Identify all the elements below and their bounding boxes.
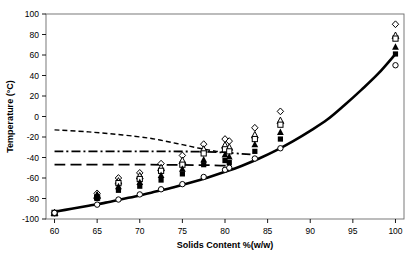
x-tick-label: 70 [135,226,145,236]
point-filled-square [180,171,185,176]
y-tick-label: 20 [30,91,40,101]
y-tick-label: -80 [27,194,40,204]
point-open-circle [158,187,163,192]
point-filled-square [158,177,163,182]
plot-frame [46,14,404,219]
point-open-circle [180,181,185,186]
x-tick-label: 80 [220,226,230,236]
point-filled-square [201,162,206,167]
y-tick-label: -60 [27,173,40,183]
chart-figure: -100-80-60-40-20020406080100606570758085… [0,0,414,263]
point-open-circle [252,156,257,161]
y-tick-label: -20 [27,132,40,142]
point-open-circle [116,197,121,202]
point-filled-square [137,184,142,189]
point-open-square [278,122,283,127]
x-tick-label: 95 [348,226,358,236]
x-axis-title: Solids Content %(w/w) [177,240,274,250]
x-tick-label: 85 [263,226,273,236]
x-tick-label: 65 [92,226,102,236]
x-tick-label: 60 [50,226,60,236]
point-filled-square [116,188,121,193]
chart-canvas: -100-80-60-40-20020406080100606570758085… [0,0,414,263]
x-tick-label: 100 [388,226,402,236]
point-open-circle [201,174,206,179]
point-filled-square [278,136,283,141]
point-open-circle [94,202,99,207]
point-open-circle [393,63,398,68]
point-open-square [393,36,398,41]
point-open-square [201,151,206,156]
y-axis-title: Temperature (°C) [5,80,15,152]
x-tick-label: 90 [306,226,316,236]
y-tick-label: -40 [27,153,40,163]
point-filled-square [227,160,232,165]
point-open-circle [278,146,283,151]
point-filled-square [95,196,100,201]
y-tick-label: 40 [30,71,40,81]
y-tick-label: 0 [34,112,39,122]
point-filled-square [252,149,257,154]
y-tick-label: 60 [30,50,40,60]
y-tick-label: -100 [22,214,39,224]
y-tick-label: 80 [30,30,40,40]
x-tick-label: 75 [178,226,188,236]
point-open-circle [227,165,232,170]
point-filled-square [393,51,398,56]
point-open-circle [137,192,142,197]
point-open-circle [52,210,57,215]
y-tick-label: 100 [25,9,39,19]
